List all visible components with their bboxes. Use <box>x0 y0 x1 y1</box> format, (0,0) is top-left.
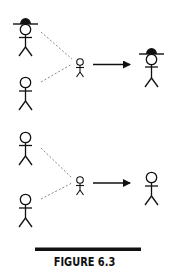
left-leg <box>145 196 152 205</box>
parent-without-hat-figure-1 <box>19 132 32 165</box>
parent-with-hat-figure <box>13 18 38 56</box>
parent-without-hat-figure <box>19 77 32 110</box>
child-figure <box>76 59 84 77</box>
lineage-line-upper <box>41 32 72 59</box>
right-leg <box>26 47 33 56</box>
head <box>77 177 84 184</box>
top-panel <box>13 18 164 110</box>
right-leg <box>152 78 159 87</box>
right-leg <box>26 218 33 227</box>
left-leg <box>19 218 26 227</box>
head <box>20 77 30 87</box>
right-leg <box>80 72 84 77</box>
head <box>146 172 156 182</box>
left-leg <box>77 190 81 195</box>
head <box>77 59 84 66</box>
adult-without-hat-figure <box>145 172 158 205</box>
head <box>20 24 30 34</box>
left-leg <box>19 101 26 110</box>
hat-icon <box>139 48 164 54</box>
bottom-panel <box>19 132 158 227</box>
left-leg <box>19 47 26 56</box>
lineage-line-upper <box>41 148 72 178</box>
right-leg <box>26 156 33 165</box>
right-leg <box>26 101 33 110</box>
left-leg <box>77 72 81 77</box>
left-leg <box>19 156 26 165</box>
hat-icon <box>13 18 38 24</box>
figure-diagram <box>0 0 169 275</box>
child-figure <box>76 177 84 195</box>
adult-with-hat-figure <box>139 48 164 87</box>
right-leg <box>152 196 159 205</box>
parent-without-hat-figure-2 <box>19 194 32 227</box>
lineage-line-lower <box>41 183 72 199</box>
right-leg <box>80 190 84 195</box>
figure-caption: FIGURE 6.3 <box>15 255 154 269</box>
left-leg <box>145 78 152 87</box>
head <box>20 132 30 142</box>
lineage-line-lower <box>41 64 72 82</box>
head <box>20 194 30 204</box>
caption-bar <box>35 248 141 252</box>
head <box>146 54 156 64</box>
